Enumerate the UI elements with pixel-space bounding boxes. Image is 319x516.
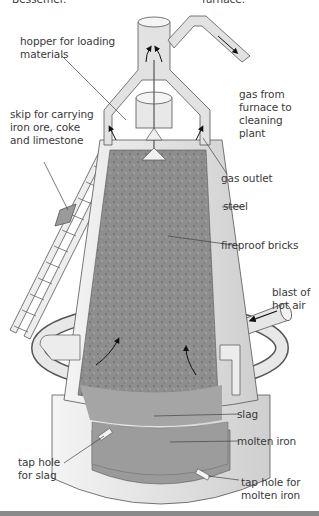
label-skip: skip for carrying iron ore, coke and lim… — [10, 108, 94, 147]
label-gas-outlet: gas outlet — [221, 172, 273, 185]
gas-pipe — [168, 16, 250, 62]
label-tap-hole-slag: tap hole for slag — [18, 456, 60, 482]
label-blast-hot-air: blast of hot air — [272, 286, 310, 312]
molten-iron-layer — [92, 422, 228, 475]
label-gas-from-furnace: gas from furnace to cleaning plant — [239, 88, 292, 140]
label-fireproof-bricks: fireproof bricks — [221, 239, 298, 252]
label-tap-hole-iron: tap hole for molten iron — [241, 476, 301, 502]
label-steel: steel — [223, 200, 248, 213]
label-slag: slag — [237, 408, 258, 421]
label-hopper: hopper for loading materials — [20, 35, 115, 61]
bottom-divider — [0, 511, 319, 516]
label-molten-iron: molten iron — [237, 435, 296, 448]
